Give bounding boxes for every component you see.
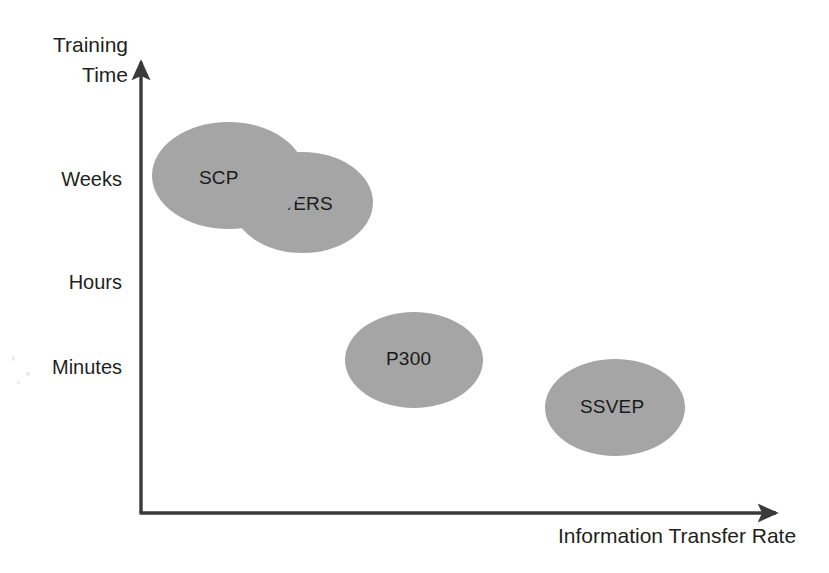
y-tick-label-weeks: Weeks [12, 168, 122, 191]
y-axis-title-line2: Time [0, 60, 128, 90]
y-axis-title-line1: Training [0, 30, 128, 60]
y-tick-label-hours: Hours [12, 271, 122, 294]
x-axis-title: Information Transfer Rate [558, 524, 796, 548]
bci-paradigm-bubble-chart: Training Time Weeks Hours Minutes Inform… [0, 0, 829, 573]
bubble-scp: SCP [152, 122, 305, 229]
bubble-label-ssvep: SSVEP [580, 396, 644, 418]
y-tick-label-minutes: Minutes [12, 356, 122, 379]
y-axis-title: Training Time [0, 30, 128, 90]
bubble-p300: P300 [345, 312, 483, 408]
bubble-ssvep: SSVEP [545, 359, 685, 456]
bubble-label-p300: P300 [386, 348, 431, 370]
bubble-label-scp: SCP [199, 167, 239, 189]
